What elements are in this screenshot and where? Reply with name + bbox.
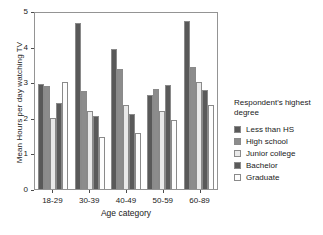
bar-group [147,13,177,189]
bar-group [111,13,141,189]
x-tick-mark [52,190,53,193]
legend: Respondent's highest degree Less than HS… [234,98,323,183]
legend-title: Respondent's highest degree [234,98,323,118]
legend-item-label: Less than HS [246,125,294,134]
x-axis-label: Age category [34,208,218,218]
bar [171,120,177,189]
legend-item-label: Bachelor [246,161,278,170]
bar-group [184,13,214,189]
bar [99,137,105,189]
y-axis-ticks: 012345 [0,0,34,235]
y-tick-label: 2 [2,115,28,123]
bar-chart-figure: Mean Hours per day watching TV 012345 18… [0,0,323,235]
bar [208,105,214,189]
legend-swatch [234,174,241,181]
legend-items: Less than HSHigh schoolJunior collegeBac… [234,123,323,183]
x-tick-label: 30-39 [69,196,109,205]
legend-item-label: Junior college [246,149,295,158]
x-tick-label: 50-59 [143,196,183,205]
x-tick-mark [163,190,164,193]
legend-item-label: Graduate [246,173,279,182]
y-tick-label: 1 [2,150,28,158]
x-axis-ticks: 18-2930-3940-4950-5960-89 [34,190,218,210]
bar-group [75,13,105,189]
legend-swatch [234,162,241,169]
y-tick-label: 4 [2,44,28,52]
x-tick-label: 60-89 [180,196,220,205]
bar [135,133,141,189]
plot-panel [34,12,218,190]
x-tick-label: 40-49 [106,196,146,205]
legend-item-label: High school [246,137,288,146]
bar-groups [35,13,217,189]
legend-item: Junior college [234,147,323,159]
y-tick-label: 3 [2,79,28,87]
legend-swatch [234,150,241,157]
legend-item: High school [234,135,323,147]
x-tick-mark [200,190,201,193]
y-tick-label: 5 [2,8,28,16]
legend-item: Less than HS [234,123,323,135]
legend-swatch [234,126,241,133]
bar-group [38,13,68,189]
x-tick-label: 18-29 [32,196,72,205]
legend-item: Bachelor [234,159,323,171]
x-tick-mark [89,190,90,193]
x-tick-mark [126,190,127,193]
legend-swatch [234,138,241,145]
y-tick-label: 0 [2,186,28,194]
legend-item: Graduate [234,171,323,183]
bar [62,82,68,189]
